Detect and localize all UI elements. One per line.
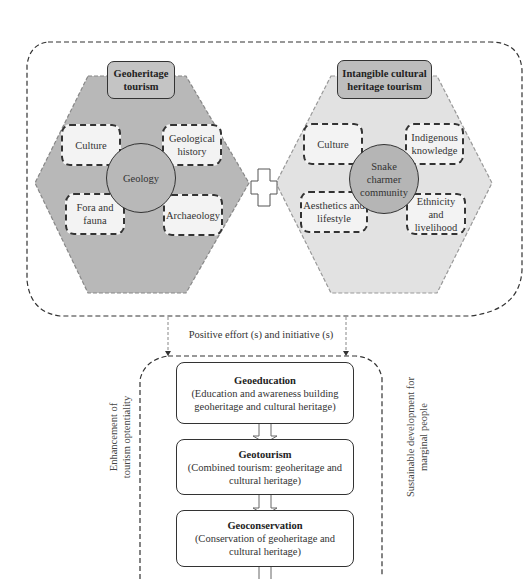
intangible-title: Intangible cultural heritage tourism: [337, 60, 432, 99]
arrow-head-left: [165, 351, 171, 356]
intangible-item-ethnicity-livelihood: Ethnicity and livelihood: [406, 193, 466, 235]
connector-label: Positive effort (s) and initiative (s): [176, 328, 346, 341]
left-side-label: Enhancement of tourism optentiality: [107, 382, 133, 492]
geology-circle: Geology: [106, 143, 176, 213]
step-geoeducation: Geoeducation (Education and awareness bu…: [176, 362, 354, 424]
geoheritage-item-archaeology: Archaeology: [163, 194, 223, 236]
plus-icon: [251, 169, 277, 206]
geoheritage-title: Geoheritage tourism: [107, 61, 175, 99]
arrow-3: [259, 567, 271, 579]
intangible-item-indigenous-knowledge: Indigenous knowledge: [405, 123, 464, 165]
step-geoconservation: Geoconservation (Conservation of geoheri…: [176, 510, 354, 567]
right-side-label: Sustainable development for marginal peo…: [404, 362, 430, 512]
arrow-head-right: [343, 351, 349, 356]
step-geotourism: Geotourism (Combined tourism: geoheritag…: [176, 439, 354, 495]
snake-charmer-circle: Snake charmer community: [349, 144, 419, 214]
